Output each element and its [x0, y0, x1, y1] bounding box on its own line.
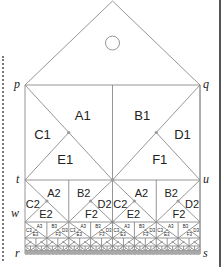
- vertex-dot: [182, 241, 184, 243]
- region-label-E3: E3: [76, 232, 82, 237]
- region-label-C3: C3: [70, 228, 76, 233]
- region-label-F3: F3: [143, 232, 149, 237]
- region-label-B2: B2: [77, 187, 90, 199]
- roof-right-edge: [113, 1, 201, 85]
- roof-circle-icon: [106, 36, 120, 50]
- point-label-u: u: [203, 172, 209, 187]
- vertex-dot: [106, 241, 108, 243]
- vertex-dot: [111, 178, 115, 182]
- region-label-D2: D2: [185, 198, 199, 210]
- region-label-A3: A3: [168, 224, 174, 229]
- vertex-dot: [45, 199, 48, 202]
- region-label-D3: D3: [149, 228, 155, 233]
- region-label-F2: F2: [85, 208, 98, 220]
- region-label-E3: E3: [33, 232, 39, 237]
- vertex-dot: [62, 241, 64, 243]
- vertex-dot: [95, 241, 97, 243]
- region-label-E2: E2: [127, 208, 140, 220]
- region-label-A3: A3: [80, 224, 86, 229]
- vertex-dot: [117, 241, 119, 243]
- region-label-C3: C3: [157, 228, 163, 233]
- region-label-B3: B3: [139, 224, 145, 229]
- vertex-dot: [73, 241, 75, 243]
- dense-bottom-band: [25, 251, 200, 255]
- region-label-B3: B3: [52, 224, 58, 229]
- roof-left-edge: [25, 1, 113, 85]
- region-label-D1: D1: [174, 127, 191, 142]
- left-dotted-edge: [2, 56, 4, 261]
- vertex-dot: [89, 199, 92, 202]
- region-label-D3: D3: [106, 228, 112, 233]
- region-label-F2: F2: [173, 208, 186, 220]
- region-label-A2: A2: [47, 187, 60, 199]
- house-recursive-diagram: A1C1E1B1D1F1A2C2E2B2D2F2A2C2E2B2D2F2A3C3…: [0, 0, 221, 267]
- point-label-q: q: [203, 77, 209, 92]
- region-label-E1: E1: [57, 152, 73, 167]
- vertex-dot: [67, 131, 70, 134]
- region-label-C3: C3: [114, 228, 120, 233]
- region-label-A1: A1: [75, 108, 91, 123]
- region-label-C2: C2: [113, 198, 127, 210]
- region-label-A3: A3: [124, 224, 130, 229]
- region-label-E3: E3: [164, 232, 170, 237]
- vertex-dot: [150, 241, 152, 243]
- point-label-w: w: [11, 206, 19, 221]
- point-label-s: s: [203, 246, 208, 261]
- point-label-t: t: [16, 172, 19, 187]
- vertex-dot: [133, 199, 136, 202]
- diagram-canvas: A1C1E1B1D1F1A2C2E2B2D2F2A2C2E2B2D2F2A3C3…: [0, 0, 221, 267]
- vertex-dot: [84, 241, 86, 243]
- region-label-A3: A3: [37, 224, 43, 229]
- region-label-E2: E2: [39, 208, 52, 220]
- vertex-dot: [161, 241, 163, 243]
- vertex-dot: [29, 241, 31, 243]
- region-label-B3: B3: [183, 224, 189, 229]
- vertex-dot: [193, 241, 195, 243]
- point-label-r: r: [15, 246, 20, 261]
- vertex-dot: [139, 241, 141, 243]
- region-label-D3: D3: [193, 228, 199, 233]
- region-label-D3: D3: [62, 228, 68, 233]
- region-label-D2: D2: [98, 198, 112, 210]
- region-label-B3: B3: [95, 224, 101, 229]
- vertex-dot: [128, 241, 130, 243]
- region-label-F3: F3: [187, 232, 193, 237]
- vertex-dot: [40, 241, 42, 243]
- region-label-E3: E3: [120, 232, 126, 237]
- region-label-F3: F3: [56, 232, 62, 237]
- region-label-C3: C3: [26, 228, 32, 233]
- right-page-edge: [219, 0, 221, 267]
- vertex-dot: [177, 199, 180, 202]
- region-label-C1: C1: [34, 127, 51, 142]
- region-label-F3: F3: [99, 232, 105, 237]
- vertex-dot: [172, 241, 174, 243]
- point-label-p: p: [14, 77, 20, 92]
- region-label-B1: B1: [134, 108, 150, 123]
- region-label-F1: F1: [152, 152, 167, 167]
- vertex-dot: [155, 131, 158, 134]
- region-label-B2: B2: [164, 187, 177, 199]
- vertex-dot: [51, 241, 53, 243]
- region-label-C2: C2: [26, 198, 40, 210]
- region-label-A2: A2: [135, 187, 148, 199]
